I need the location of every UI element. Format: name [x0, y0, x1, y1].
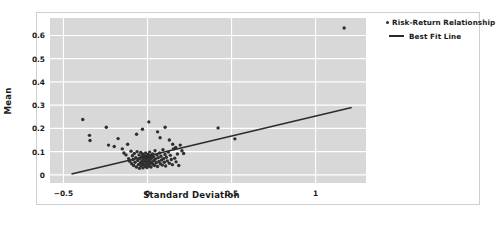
- data-point: [149, 165, 152, 168]
- data-point: [233, 137, 236, 140]
- y-axis-tick-label: 0.3: [19, 101, 45, 110]
- data-point: [173, 156, 176, 159]
- x-axis-tick-label: 0.5: [215, 189, 249, 198]
- data-point: [153, 149, 156, 152]
- data-point: [171, 163, 174, 166]
- data-point: [342, 26, 345, 29]
- y-axis-tick-label: 0.2: [19, 124, 45, 133]
- data-point: [168, 162, 171, 165]
- data-point: [158, 136, 161, 139]
- y-axis-tick-label: 0.5: [19, 55, 45, 64]
- legend-item-line[interactable]: Best Fit Line: [386, 30, 492, 42]
- data-point: [170, 158, 173, 161]
- data-point: [113, 145, 116, 148]
- data-point: [163, 126, 166, 129]
- data-point: [107, 143, 110, 146]
- data-point: [88, 134, 91, 137]
- data-point: [171, 142, 174, 145]
- scatter-marker-icon: [386, 21, 389, 24]
- x-axis-tick-label: −0.5: [46, 189, 80, 198]
- line-marker-icon: [386, 35, 406, 37]
- data-point: [147, 120, 150, 123]
- data-point: [129, 149, 132, 152]
- data-point: [177, 164, 180, 167]
- data-point: [176, 152, 179, 155]
- y-axis-tick-label: 0: [19, 171, 45, 180]
- legend-label-line: Best Fit Line: [409, 32, 461, 41]
- data-point: [182, 152, 185, 155]
- data-point: [169, 154, 172, 157]
- x-axis-tick-label: 1: [299, 189, 333, 198]
- chart-legend: Risk-Return Relationship Best Fit Line: [386, 16, 492, 44]
- data-point: [121, 147, 124, 150]
- data-point: [105, 126, 108, 129]
- data-point: [163, 161, 166, 164]
- y-axis-label: Mean: [3, 88, 13, 115]
- legend-item-scatter[interactable]: Risk-Return Relationship: [386, 16, 492, 28]
- data-point: [141, 128, 144, 131]
- data-point: [156, 165, 159, 168]
- data-point: [126, 142, 129, 145]
- legend-label-scatter: Risk-Return Relationship: [392, 18, 495, 27]
- data-point: [216, 126, 219, 129]
- data-point: [161, 148, 164, 151]
- data-point: [81, 118, 84, 121]
- data-point: [165, 156, 168, 159]
- data-point: [174, 160, 177, 163]
- data-point: [168, 138, 171, 141]
- plot-panel-background: [50, 18, 366, 183]
- y-axis-tick-label: 0.6: [19, 31, 45, 40]
- data-point: [159, 155, 162, 158]
- x-axis-tick-label: 0: [130, 189, 164, 198]
- y-axis-tick-label: 0.1: [19, 148, 45, 157]
- data-point: [88, 139, 91, 142]
- data-point: [135, 150, 138, 153]
- y-axis-tick-label: 0.4: [19, 78, 45, 87]
- data-point: [135, 132, 138, 135]
- data-point: [116, 137, 119, 140]
- data-point: [148, 150, 151, 153]
- data-point: [161, 163, 164, 166]
- data-point: [164, 164, 167, 167]
- data-point: [124, 153, 127, 156]
- data-point: [156, 130, 159, 133]
- data-point: [179, 143, 182, 146]
